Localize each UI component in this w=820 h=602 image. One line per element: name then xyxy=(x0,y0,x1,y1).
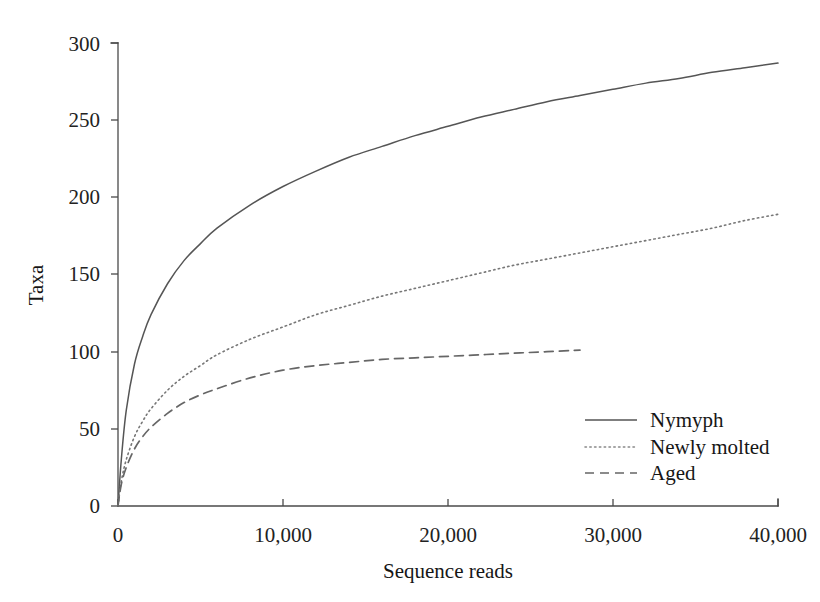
y-tick-label-300: 300 xyxy=(69,32,101,56)
x-tick-label-30000: 30,000 xyxy=(584,523,642,547)
legend-label-aged: Aged xyxy=(650,461,696,485)
y-tick-label-50: 50 xyxy=(79,417,100,441)
y-tick-label-200: 200 xyxy=(69,185,101,209)
y-axis-ticks xyxy=(111,43,118,506)
x-tick-label-40000: 40,000 xyxy=(749,523,807,547)
legend-item-nymyph[interactable]: Nymyph xyxy=(585,408,724,432)
chart-legend: Nymyph Newly molted Aged xyxy=(585,408,770,485)
x-tick-label-20000: 20,000 xyxy=(419,523,477,547)
y-tick-label-150: 150 xyxy=(69,262,101,286)
y-axis-title: Taxa xyxy=(24,264,48,305)
y-tick-label-250: 250 xyxy=(69,108,101,132)
y-tick-label-100: 100 xyxy=(69,340,101,364)
legend-label-nymyph: Nymyph xyxy=(650,408,724,432)
x-tick-label-0: 0 xyxy=(113,523,124,547)
legend-item-newly-molted[interactable]: Newly molted xyxy=(585,435,770,459)
chart-figure: 0 50 100 150 200 250 300 0 10,000 20,000… xyxy=(0,0,820,602)
x-tick-label-10000: 10,000 xyxy=(254,523,312,547)
rarefaction-curve-chart: 0 50 100 150 200 250 300 0 10,000 20,000… xyxy=(0,0,820,602)
legend-label-newly-molted: Newly molted xyxy=(650,435,770,459)
x-axis-tick-labels: 0 10,000 20,000 30,000 40,000 xyxy=(113,523,807,547)
x-axis-title: Sequence reads xyxy=(383,559,513,583)
x-axis-ticks xyxy=(118,499,778,506)
y-tick-label-0: 0 xyxy=(90,494,101,518)
legend-item-aged[interactable]: Aged xyxy=(585,461,696,485)
y-axis-tick-labels: 0 50 100 150 200 250 300 xyxy=(69,32,101,518)
